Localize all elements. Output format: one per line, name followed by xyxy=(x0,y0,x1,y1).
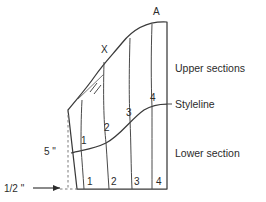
lower-section-number-3: 3 xyxy=(134,176,140,187)
point-label-a: A xyxy=(153,6,160,17)
label-lower-section: Lower section xyxy=(175,147,240,159)
offset-arrow-head xyxy=(53,185,60,191)
upper-section-number-2: 2 xyxy=(104,122,110,133)
upper-section-number-3: 3 xyxy=(126,107,132,118)
dimension-height-label: 5 " xyxy=(44,146,56,157)
upper-section-number-1: 1 xyxy=(81,135,87,146)
lower-section-number-1: 1 xyxy=(87,176,93,187)
lower-section-number-2: 2 xyxy=(111,176,117,187)
label-styleline: Styleline xyxy=(175,98,215,110)
lower-section-number-4: 4 xyxy=(156,176,162,187)
upper-section-number-4: 4 xyxy=(150,92,156,103)
pattern-diagram: A X Upper sections Styleline Lower secti… xyxy=(0,0,266,202)
diagram-canvas: A X Upper sections Styleline Lower secti… xyxy=(0,0,266,202)
point-label-x: X xyxy=(101,44,108,55)
dimension-offset-label: 1/2 " xyxy=(4,183,25,194)
label-upper-sections: Upper sections xyxy=(175,62,245,74)
